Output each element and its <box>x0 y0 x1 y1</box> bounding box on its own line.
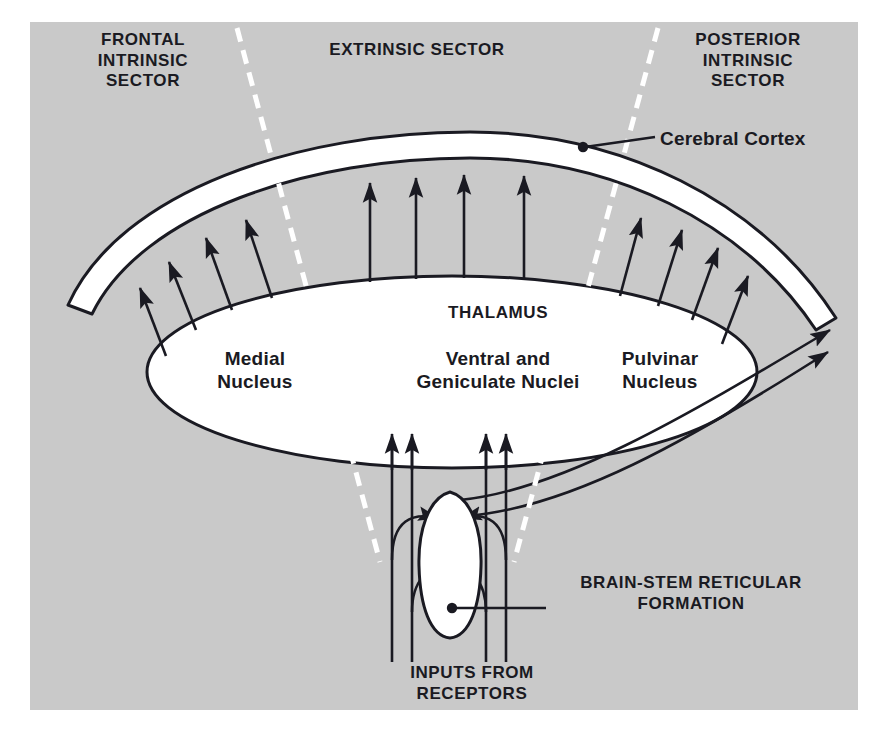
label-ventral-geniculate-nuclei: Ventral and Geniculate Nuclei <box>398 347 598 393</box>
label-medial-nucleus: Medial Nucleus <box>185 347 325 393</box>
label-pulvinar-nucleus: Pulvinar Nucleus <box>590 347 730 393</box>
label-thalamus: THALAMUS <box>398 303 598 324</box>
brain-stem-reticular-oval <box>419 492 481 638</box>
label-cerebral-cortex: Cerebral Cortex <box>660 127 860 150</box>
figure-root: FRONTAL INTRINSIC SECTOR EXTRINSIC SECTO… <box>0 0 889 744</box>
label-frontal-intrinsic-sector: FRONTAL INTRINSIC SECTOR <box>48 30 238 92</box>
label-inputs-from-receptors: INPUTS FROM RECEPTORS <box>352 663 592 704</box>
label-posterior-intrinsic-sector: POSTERIOR INTRINSIC SECTOR <box>648 30 848 92</box>
label-extrinsic-sector: EXTRINSIC SECTOR <box>292 40 542 61</box>
label-brain-stem-reticular-formation: BRAIN-STEM RETICULAR FORMATION <box>551 573 831 614</box>
